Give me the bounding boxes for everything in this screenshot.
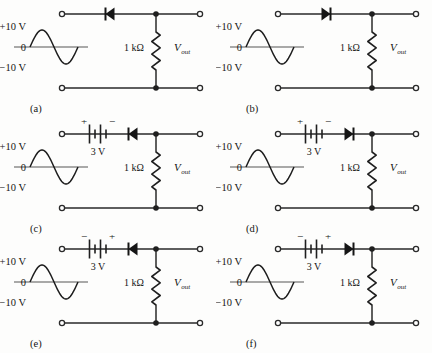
output-terminal-top bbox=[413, 246, 418, 251]
battery-right-polarity: − bbox=[109, 120, 115, 127]
input-terminal-top bbox=[59, 246, 64, 251]
input-terminal-top bbox=[275, 131, 280, 136]
output-voltage-label: Vout bbox=[174, 276, 191, 291]
source-zero-label: 0 bbox=[21, 277, 26, 288]
output-voltage-label: Vout bbox=[390, 276, 407, 291]
diode-symbol-left bbox=[129, 243, 138, 256]
source-zero-label: 0 bbox=[237, 277, 242, 288]
source-peak-positive-label: +10 V bbox=[0, 21, 26, 32]
input-terminal-bottom bbox=[59, 85, 64, 90]
source-peak-positive-label: +10 V bbox=[0, 141, 26, 152]
svg-text:Vout: Vout bbox=[174, 276, 191, 291]
output-terminal-top bbox=[197, 11, 202, 16]
battery-left-polarity: − bbox=[81, 235, 87, 242]
source-peak-positive-label: +10 V bbox=[216, 256, 242, 267]
output-voltage-label: Vout bbox=[174, 161, 191, 176]
svg-text:Vout: Vout bbox=[174, 161, 191, 176]
diode-symbol-right bbox=[345, 243, 354, 256]
source-peak-negative-label: −10 V bbox=[216, 62, 242, 73]
diode-symbol-left bbox=[106, 8, 115, 21]
input-terminal-top bbox=[275, 246, 280, 251]
diode-symbol-right bbox=[322, 8, 331, 21]
source-peak-positive-label: +10 V bbox=[216, 141, 242, 152]
battery-voltage-label: 3 V bbox=[91, 146, 106, 157]
circuit-caption-a: (a) bbox=[30, 103, 42, 115]
input-terminal-top bbox=[59, 131, 64, 136]
battery-voltage-label: 3 V bbox=[307, 261, 322, 272]
source-peak-negative-label: −10 V bbox=[216, 182, 242, 193]
input-terminal-bottom bbox=[59, 205, 64, 210]
resistor-value-label: 1 kΩ bbox=[124, 162, 144, 173]
circuit-b: +10 V0−10 V1 kΩVout(b) bbox=[216, 0, 432, 115]
resistor-symbol bbox=[368, 267, 376, 305]
circuit-d: +−3 V+10 V0−10 V1 kΩVout(d) bbox=[216, 120, 432, 235]
junction-node-bottom bbox=[369, 205, 375, 211]
circuit-caption-c: (c) bbox=[30, 223, 42, 235]
output-terminal-top bbox=[413, 11, 418, 16]
circuit-caption-b: (b) bbox=[246, 103, 259, 115]
resistor-symbol bbox=[368, 152, 376, 190]
diode-symbol-right bbox=[345, 128, 354, 141]
diode-symbol-left bbox=[129, 128, 138, 141]
output-terminal-bottom bbox=[413, 205, 418, 210]
circuit-figure-grid: +10 V0−10 V1 kΩVout(a)+10 V0−10 V1 kΩVou… bbox=[0, 0, 432, 353]
source-zero-label: 0 bbox=[237, 162, 242, 173]
circuit-c: +−3 V+10 V0−10 V1 kΩVout(c) bbox=[0, 120, 216, 235]
output-terminal-bottom bbox=[413, 85, 418, 90]
resistor-symbol bbox=[152, 152, 160, 190]
resistor-value-label: 1 kΩ bbox=[340, 277, 360, 288]
circuit-caption-d: (d) bbox=[246, 223, 259, 235]
circuit-a: +10 V0−10 V1 kΩVout(a) bbox=[0, 0, 216, 115]
output-terminal-top bbox=[197, 246, 202, 251]
junction-node-bottom bbox=[153, 205, 159, 211]
junction-node-top bbox=[369, 11, 375, 17]
battery-left-polarity: + bbox=[81, 120, 87, 127]
resistor-symbol bbox=[152, 267, 160, 305]
circuit-f: −+3 V+10 V0−10 V1 kΩVout(f) bbox=[216, 235, 432, 350]
source-zero-label: 0 bbox=[21, 42, 26, 53]
resistor-symbol bbox=[368, 32, 376, 70]
junction-node-top bbox=[153, 131, 159, 137]
battery-right-polarity: + bbox=[325, 235, 331, 242]
source-peak-negative-label: −10 V bbox=[0, 182, 26, 193]
input-terminal-top bbox=[275, 11, 280, 16]
battery-left-polarity: + bbox=[297, 120, 303, 127]
junction-node-top bbox=[153, 246, 159, 252]
output-terminal-bottom bbox=[197, 205, 202, 210]
circuit-caption-f: (f) bbox=[246, 338, 257, 350]
junction-node-bottom bbox=[369, 320, 375, 326]
output-voltage-label: Vout bbox=[390, 161, 407, 176]
input-terminal-bottom bbox=[275, 320, 280, 325]
resistor-value-label: 1 kΩ bbox=[124, 277, 144, 288]
junction-node-bottom bbox=[153, 85, 159, 91]
source-peak-negative-label: −10 V bbox=[0, 297, 26, 308]
resistor-value-label: 1 kΩ bbox=[124, 42, 144, 53]
battery-right-polarity: − bbox=[325, 120, 331, 127]
source-zero-label: 0 bbox=[21, 162, 26, 173]
junction-node-top bbox=[369, 246, 375, 252]
input-terminal-top bbox=[59, 11, 64, 16]
input-terminal-bottom bbox=[275, 85, 280, 90]
source-zero-label: 0 bbox=[237, 42, 242, 53]
source-peak-positive-label: +10 V bbox=[216, 21, 242, 32]
resistor-value-label: 1 kΩ bbox=[340, 42, 360, 53]
source-peak-negative-label: −10 V bbox=[216, 297, 242, 308]
output-terminal-bottom bbox=[197, 85, 202, 90]
output-terminal-bottom bbox=[197, 320, 202, 325]
resistor-value-label: 1 kΩ bbox=[340, 162, 360, 173]
battery-voltage-label: 3 V bbox=[307, 146, 322, 157]
output-voltage-label: Vout bbox=[390, 41, 407, 56]
output-voltage-label: Vout bbox=[174, 41, 191, 56]
svg-text:Vout: Vout bbox=[390, 41, 407, 56]
input-terminal-bottom bbox=[275, 205, 280, 210]
junction-node-top bbox=[153, 11, 159, 17]
source-peak-positive-label: +10 V bbox=[0, 256, 26, 267]
svg-text:Vout: Vout bbox=[390, 276, 407, 291]
input-terminal-bottom bbox=[59, 320, 64, 325]
resistor-symbol bbox=[152, 32, 160, 70]
circuit-e: −+3 V+10 V0−10 V1 kΩVout(e) bbox=[0, 235, 216, 350]
battery-right-polarity: + bbox=[109, 235, 115, 242]
circuit-caption-e: (e) bbox=[30, 338, 42, 350]
junction-node-bottom bbox=[153, 320, 159, 326]
junction-node-bottom bbox=[369, 85, 375, 91]
